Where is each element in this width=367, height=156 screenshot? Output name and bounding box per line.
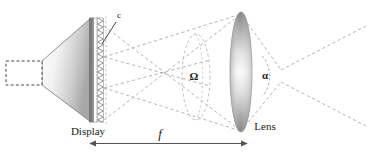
ray-focus-to-upper-right — [281, 26, 366, 70]
display-panel-dark-layer — [90, 18, 94, 122]
label-focal-length: f — [158, 126, 164, 141]
ray-lower-to-lens-top — [104, 14, 241, 120]
figure-canvas: c Display Lens Ω α f — [0, 0, 367, 156]
ray-focus-to-lower-right — [281, 82, 366, 126]
lens-highlight — [230, 12, 252, 132]
label-lenticular: c — [117, 10, 121, 20]
backlight-box-rect — [6, 61, 42, 85]
lens — [230, 12, 252, 132]
projection-cone — [42, 18, 91, 122]
display-panel — [90, 18, 98, 122]
label-solid-angle: Ω — [190, 70, 199, 82]
cone-body — [42, 18, 91, 122]
leader-line-c — [102, 22, 116, 44]
lenticular-array — [97, 16, 106, 124]
lenticular-leader-line — [102, 22, 116, 44]
optical-diagram: c Display Lens Ω α f — [0, 0, 367, 156]
label-display: Display — [71, 125, 106, 137]
ray-mid-upper — [104, 14, 241, 57]
label-view-angle: α — [262, 69, 269, 81]
display-panel-glass-layer — [94, 18, 97, 122]
ray-upper-to-lens-bottom — [104, 26, 241, 131]
ray-bundle-right — [241, 14, 366, 131]
label-lens: Lens — [254, 120, 275, 132]
ray-bundle-left — [104, 14, 241, 131]
backlight-box — [6, 61, 42, 85]
ray-mid-lower — [104, 88, 241, 131]
